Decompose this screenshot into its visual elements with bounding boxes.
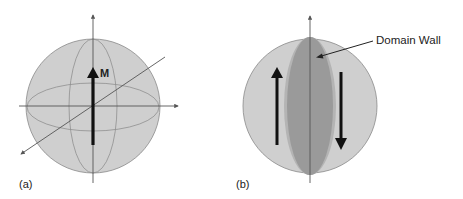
panel-a: M (a) — [19, 15, 178, 190]
panel-label-b: (b) — [236, 178, 249, 190]
panel-label-a: (a) — [19, 178, 32, 190]
domain-wall-label: Domain Wall — [376, 34, 441, 46]
panel-b: Domain Wall (b) — [236, 16, 441, 190]
vector-label-m: M — [100, 67, 109, 79]
figure: M (a) Domain Wall (b) — [0, 0, 463, 199]
